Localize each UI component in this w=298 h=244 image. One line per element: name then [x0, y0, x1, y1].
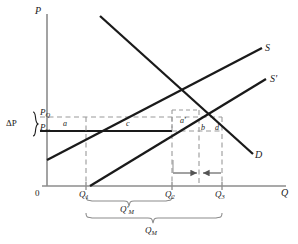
x-axis-label: Q [281, 188, 288, 198]
price-label-pq-sub: Q [46, 111, 51, 118]
demand-curve-d-label: D [255, 150, 262, 160]
price-label-pq: PQ [40, 108, 50, 118]
supply-curve-s-label: S [265, 43, 270, 53]
area-label-a-prime: a' [180, 117, 186, 125]
y-axis-label: P [35, 6, 41, 16]
area-label-d: d [215, 124, 219, 132]
origin-label: 0 [35, 189, 40, 198]
delta-p-label: ΔP [6, 119, 17, 128]
tick-label-q3: Q3 [215, 190, 225, 200]
area-label-a: a [63, 120, 67, 128]
area-label-c: c [126, 120, 130, 128]
brace-delta-p [33, 112, 38, 136]
tick-label-q1: Q1 [79, 190, 89, 200]
brace-qm-path [86, 213, 222, 223]
supply-curve-s-prime [90, 79, 266, 186]
area-label-b: b [201, 124, 205, 132]
brace-label-qm-prime: Q'M [120, 205, 134, 215]
economics-diagram-figure: ​ ​ P Q 0 ΔP PQ Pw S S' D a c a' b d Q1 … [0, 0, 298, 244]
tick-label-q2: Q2 [165, 190, 175, 200]
supply-curve-s-prime-label: S' [270, 74, 277, 84]
price-label-pw: Pw [40, 123, 50, 133]
price-label-pw-sub: w [46, 126, 50, 133]
brace-label-qm: QM [145, 226, 157, 236]
